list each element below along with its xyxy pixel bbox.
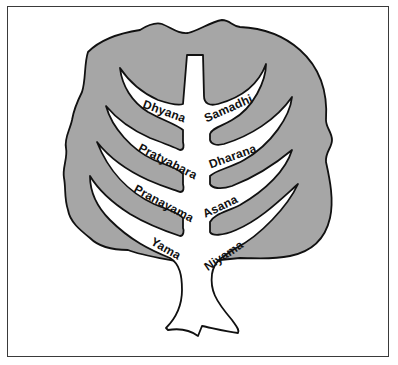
yoga-tree-diagram: Dhyana Pratyahara Pranayama Yama Samadhi… <box>0 0 398 365</box>
